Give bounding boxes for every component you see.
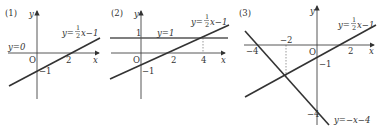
svg-text:1: 1 xyxy=(205,13,209,21)
tick-y-neg4: −4 xyxy=(307,109,320,119)
panel-2-label: (2) xyxy=(111,8,123,18)
svg-text:y=: y= xyxy=(61,28,74,38)
tick-x-neg2: −2 xyxy=(280,35,293,45)
tick-x-2: 2 xyxy=(171,55,176,65)
svg-text:2: 2 xyxy=(76,32,80,40)
tick-x-4: 4 xyxy=(201,55,206,65)
line-equation-label: y= 1 2 x−1 xyxy=(190,13,227,29)
svg-text:y=: y= xyxy=(337,20,350,30)
tick-x-2: 2 xyxy=(66,55,71,65)
svg-text:1: 1 xyxy=(352,16,356,24)
panel-1: (1) y x O 2 −1 y=0 y= 1 2 x−1 xyxy=(5,8,100,99)
line2-equation-label: y=−x−4 xyxy=(333,115,370,125)
panel-3-label: (3) xyxy=(239,8,251,18)
x-axis-label: x xyxy=(221,55,226,65)
svg-text:x−1: x−1 xyxy=(81,28,98,38)
panel-1-label: (1) xyxy=(5,8,17,18)
y-axis-label: y xyxy=(133,9,139,19)
line-equation-label: y= 1 2 x−1 xyxy=(337,16,374,32)
svg-text:x−1: x−1 xyxy=(357,20,374,30)
panel-2: (2) y x O 2 4 1 −1 y=1 y= 1 2 x−1 xyxy=(110,8,229,99)
x-axis-label: x xyxy=(369,46,374,56)
svg-text:1: 1 xyxy=(76,24,80,32)
svg-text:y=: y= xyxy=(190,17,203,27)
line-equation-label: y= 1 2 x−1 xyxy=(61,24,98,40)
label-y-0: y=0 xyxy=(7,42,26,52)
tick-y-1: 1 xyxy=(136,28,141,38)
tick-x-2: 2 xyxy=(348,46,353,56)
origin-label: O xyxy=(29,55,36,65)
tick-y-neg1: −1 xyxy=(142,66,155,76)
line-half-x-minus-1 xyxy=(245,25,376,97)
svg-text:x−1: x−1 xyxy=(210,17,227,27)
y-axis-label: y xyxy=(309,6,315,16)
x-axis-label: x xyxy=(93,55,98,65)
tick-x-neg4: −4 xyxy=(246,46,259,56)
y-axis-label: y xyxy=(28,9,34,19)
origin-label: O xyxy=(309,47,316,57)
svg-text:2: 2 xyxy=(352,24,356,32)
tick-y-neg1: −1 xyxy=(319,59,332,69)
label-y-1: y=1 xyxy=(156,28,174,38)
diagram-canvas: (1) y x O 2 −1 y=0 y= 1 2 x−1 (2) y x O … xyxy=(0,0,378,127)
svg-text:2: 2 xyxy=(205,21,209,29)
panel-3: (3) y x O −4 −2 2 −1 −4 y= 1 2 x−1 y=−x−… xyxy=(239,6,376,125)
origin-label: O xyxy=(133,55,140,65)
